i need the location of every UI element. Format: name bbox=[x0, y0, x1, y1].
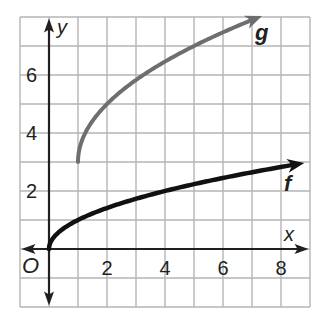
g-curve-label: g bbox=[254, 20, 269, 45]
x-tick-label: 8 bbox=[275, 257, 286, 279]
curve-f bbox=[49, 165, 294, 249]
x-axis-label: x bbox=[283, 223, 295, 245]
f-curve-label: f bbox=[284, 171, 294, 196]
origin-label: O bbox=[22, 253, 39, 278]
coordinate-plane: y x O f g 2468246 bbox=[0, 0, 322, 325]
x-tick-label: 6 bbox=[217, 257, 228, 279]
x-tick-label: 4 bbox=[159, 257, 170, 279]
x-tick-label: 2 bbox=[101, 257, 112, 279]
labels: y x O f g 2468246 bbox=[22, 16, 295, 279]
y-tick-label: 2 bbox=[26, 180, 37, 202]
y-axis-label: y bbox=[55, 16, 68, 38]
y-tick-label: 6 bbox=[26, 64, 37, 86]
y-tick-label: 4 bbox=[26, 122, 37, 144]
